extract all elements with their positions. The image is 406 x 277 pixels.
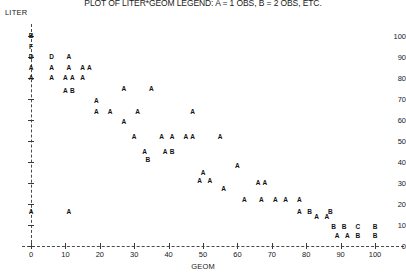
x-tick-mark bbox=[375, 243, 376, 249]
y-tick-mark bbox=[28, 141, 34, 142]
x-axis-line bbox=[22, 246, 404, 247]
x-tick-label: 30 bbox=[119, 250, 149, 259]
data-point-marker: A bbox=[242, 197, 247, 204]
x-tick-label: 100 bbox=[360, 250, 390, 259]
x-tick-mark bbox=[272, 243, 273, 249]
y-tick-label: 20 bbox=[382, 200, 406, 209]
x-tick-mark bbox=[237, 243, 238, 249]
data-point-marker: B bbox=[355, 232, 360, 239]
x-tick-label: 0 bbox=[16, 250, 46, 259]
x-tick-label: 70 bbox=[257, 250, 287, 259]
data-point-marker: A bbox=[87, 64, 92, 71]
data-point-marker: A bbox=[49, 75, 54, 82]
scatter-plot-figure: PLOT OF LITER*GEOM LEGEND: A = 1 OBS, B … bbox=[0, 0, 406, 277]
data-point-marker: B bbox=[342, 224, 347, 231]
y-tick-label: 100 bbox=[382, 32, 406, 41]
y-tick-label: 80 bbox=[382, 74, 406, 83]
y-tick-mark bbox=[28, 183, 34, 184]
x-tick-mark bbox=[31, 243, 32, 249]
data-point-marker: A bbox=[80, 64, 85, 71]
y-tick-label: 50 bbox=[382, 137, 406, 146]
data-point-marker: A bbox=[66, 209, 71, 216]
x-tick-mark bbox=[306, 243, 307, 249]
x-tick-label: 40 bbox=[154, 250, 184, 259]
x-tick-label: 20 bbox=[85, 250, 115, 259]
y-tick-label: 30 bbox=[382, 179, 406, 188]
data-point-marker: F bbox=[29, 43, 33, 50]
data-point-marker: A bbox=[132, 134, 137, 141]
y-tick-label: 90 bbox=[382, 53, 406, 62]
data-point-marker: A bbox=[263, 180, 268, 187]
data-point-marker: A bbox=[70, 75, 75, 82]
x-tick-label: 90 bbox=[326, 250, 356, 259]
y-tick-label: 40 bbox=[382, 158, 406, 167]
x-tick-label: 80 bbox=[291, 250, 321, 259]
data-point-marker: A bbox=[159, 134, 164, 141]
data-point-marker: B bbox=[170, 148, 175, 155]
y-tick-mark bbox=[28, 204, 34, 205]
data-point-marker: A bbox=[66, 54, 71, 61]
data-point-marker: A bbox=[108, 108, 113, 115]
data-point-marker: A bbox=[29, 75, 34, 82]
data-point-marker: A bbox=[49, 64, 54, 71]
data-point-marker: A bbox=[135, 108, 140, 115]
data-point-marker: A bbox=[149, 85, 154, 92]
x-tick-label: 10 bbox=[50, 250, 80, 259]
data-point-marker: A bbox=[170, 134, 175, 141]
y-tick-mark bbox=[28, 120, 34, 121]
x-tick-mark bbox=[203, 243, 204, 249]
x-tick-label: 60 bbox=[222, 250, 252, 259]
data-point-marker: A bbox=[66, 64, 71, 71]
data-point-marker: C bbox=[355, 224, 360, 231]
x-axis-label: GEOM bbox=[0, 262, 406, 271]
data-point-marker: A bbox=[122, 85, 127, 92]
x-tick-mark bbox=[100, 243, 101, 249]
data-point-marker: A bbox=[29, 209, 34, 216]
data-point-marker: A bbox=[197, 178, 202, 185]
data-point-marker: A bbox=[273, 197, 278, 204]
data-point-marker: B bbox=[331, 224, 336, 231]
data-point-marker: A bbox=[283, 197, 288, 204]
data-point-marker: A bbox=[190, 134, 195, 141]
data-point-marker: A bbox=[94, 108, 99, 115]
data-point-marker: A bbox=[63, 87, 68, 94]
data-point-marker: B bbox=[307, 209, 312, 216]
x-tick-label: 50 bbox=[188, 250, 218, 259]
y-tick-label: 70 bbox=[382, 95, 406, 104]
data-point-marker: B bbox=[328, 209, 333, 216]
x-tick-mark bbox=[169, 243, 170, 249]
data-point-marker: A bbox=[29, 64, 34, 71]
data-point-marker: A bbox=[201, 169, 206, 176]
y-tick-mark bbox=[28, 99, 34, 100]
data-point-marker: A bbox=[256, 180, 261, 187]
data-point-marker: A bbox=[63, 75, 68, 82]
data-point-marker: A bbox=[297, 209, 302, 216]
data-point-marker: A bbox=[335, 232, 340, 239]
data-point-marker: B bbox=[373, 232, 378, 239]
data-point-marker: A bbox=[183, 134, 188, 141]
data-point-marker: A bbox=[122, 119, 127, 126]
y-axis-label: LITER bbox=[5, 8, 27, 17]
chart-title: PLOT OF LITER*GEOM LEGEND: A = 1 OBS, B … bbox=[0, 0, 406, 8]
x-tick-mark bbox=[341, 243, 342, 249]
data-point-marker: A bbox=[94, 98, 99, 105]
data-point-marker: A bbox=[163, 148, 168, 155]
data-point-marker: B bbox=[29, 33, 34, 40]
data-point-marker: A bbox=[218, 134, 223, 141]
data-point-marker: A bbox=[190, 108, 195, 115]
data-point-marker: A bbox=[259, 197, 264, 204]
data-point-marker: A bbox=[80, 75, 85, 82]
data-point-marker: A bbox=[314, 213, 319, 220]
x-tick-mark bbox=[65, 243, 66, 249]
data-point-marker: A bbox=[235, 163, 240, 170]
data-point-marker: D bbox=[29, 54, 34, 61]
data-point-marker: D bbox=[49, 54, 54, 61]
data-point-marker: A bbox=[221, 186, 226, 193]
data-point-marker: B bbox=[373, 224, 378, 231]
y-tick-mark bbox=[28, 225, 34, 226]
y-tick-label: 10 bbox=[382, 221, 406, 230]
y-tick-mark bbox=[28, 162, 34, 163]
data-point-marker: B bbox=[146, 157, 151, 164]
data-point-marker: A bbox=[345, 232, 350, 239]
data-point-marker: B bbox=[70, 87, 75, 94]
